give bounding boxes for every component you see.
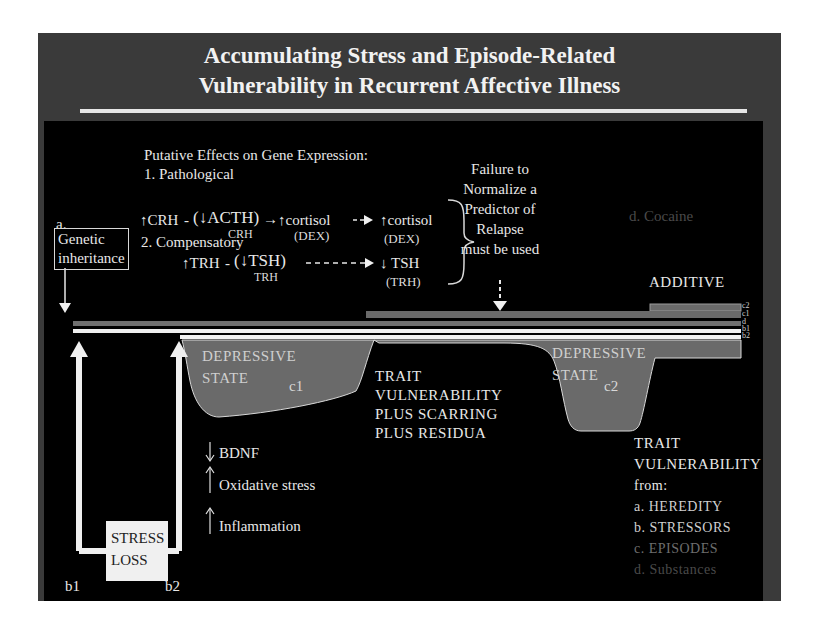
failure-arrow-head [493, 301, 507, 311]
band-c1 [73, 321, 741, 326]
title-underline [80, 109, 747, 113]
acth-arrow: → [263, 210, 278, 228]
episode-c1-label-2: STATE [202, 369, 248, 387]
title-line-1: Accumulating Stress and Episode-Related [38, 41, 781, 71]
failure-note-line: Predictor of [456, 199, 544, 219]
title-line-2: Vulnerability in Recurrent Affective Ill… [38, 71, 781, 101]
tsh-sub: TRH [254, 270, 278, 285]
slide-title: Accumulating Stress and Episode-Related … [38, 41, 781, 101]
episode-c2-tag: c2 [604, 377, 618, 395]
failure-note-line: must be used [456, 239, 544, 259]
trait-middle-text: TRAIT VULNERABILITY PLUS SCARRING PLUS R… [375, 367, 502, 443]
gene-expression-heading: Putative Effects on Gene Expression: [144, 146, 368, 164]
cortisol-2-sub: (DEX) [384, 231, 419, 247]
trh-sep: - [225, 254, 230, 272]
trait-middle-line: PLUS RESIDUA [375, 424, 502, 443]
b1-label: b1 [65, 577, 80, 595]
biomarker-bdnf: BDNF [219, 444, 259, 462]
genetic-line-1: Genetic [58, 230, 125, 249]
trait-item-stressors: b. STRESSORS [634, 517, 761, 538]
loss-label: LOSS [111, 549, 163, 571]
tsh-arrow-head [365, 258, 374, 268]
genetic-line-2: inheritance [58, 249, 125, 268]
genetic-inheritance-box: Genetic inheritance [54, 228, 129, 270]
band-d [366, 311, 741, 318]
genetic-arrow-head [59, 303, 71, 313]
tsh-down-2: ↓ TSH [380, 254, 419, 272]
cortisol-up-2: ↑cortisol [380, 211, 433, 229]
pathological-label: 1. Pathological [144, 165, 234, 183]
band-b1 [73, 329, 741, 333]
episode-c2-label-1: DEPRESSIVE [552, 344, 646, 362]
tsh-2-sub: (TRH) [386, 274, 421, 290]
stress-label: STRESS [111, 527, 163, 549]
trait-middle-line: VULNERABILITY [375, 386, 502, 405]
cortisol-1-sub: (DEX) [294, 228, 329, 244]
trait-right-from: from: [634, 475, 761, 496]
b2-label: b2 [165, 577, 180, 595]
band-b2 [180, 335, 741, 339]
trait-item-substances: d. Substances [634, 559, 761, 580]
cortisol-up-1: ↑cortisol [278, 211, 331, 229]
trh-up: ↑TRH [182, 254, 220, 272]
biomarker-inflammation: Inflammation [219, 517, 301, 535]
failure-note: Failure to Normalize a Predictor of Rela… [456, 159, 544, 259]
trait-right-title-1: TRAIT [634, 433, 761, 454]
episode-c1-label-1: DEPRESSIVE [202, 347, 296, 365]
tsh-down: (↓TSH) [234, 252, 286, 270]
compensatory-label: 2. Compensatory [141, 233, 244, 251]
failure-note-line: Normalize a [456, 179, 544, 199]
trait-middle-line: TRAIT [375, 367, 502, 386]
band-c2-additive [650, 304, 741, 311]
cortisol-arrow-head [364, 215, 373, 225]
acth-down: (↓ACTH) [193, 209, 259, 227]
additive-label: ADDITIVE [649, 273, 725, 291]
arrow-up-b1 [70, 341, 88, 357]
trait-right-text: TRAIT VULNERABILITY from: a. HEREDITY b.… [634, 433, 761, 580]
trait-item-episodes: c. EPISODES [634, 538, 761, 559]
cocaine-label: d. Cocaine [629, 207, 693, 225]
crh-up: ↑CRH [140, 211, 178, 229]
trait-item-heredity: a. HEREDITY [634, 496, 761, 517]
slide: Accumulating Stress and Episode-Related … [38, 33, 781, 601]
trait-right-title-2: VULNERABILITY [634, 454, 761, 475]
crh-sep: - [184, 211, 189, 229]
episode-c1-tag: c1 [289, 377, 303, 395]
diagram-panel: Putative Effects on Gene Expression: 1. … [44, 121, 763, 601]
episode-c2-label-2: STATE [552, 366, 598, 384]
trait-middle-line: PLUS SCARRING [375, 405, 502, 424]
biomarker-oxidative-stress: Oxidative stress [219, 476, 315, 494]
stress-loss-box: STRESS LOSS [106, 521, 168, 581]
failure-note-line: Failure to [456, 159, 544, 179]
bar-label-b2: b2 [742, 332, 750, 340]
failure-note-line: Relapse [456, 219, 544, 239]
